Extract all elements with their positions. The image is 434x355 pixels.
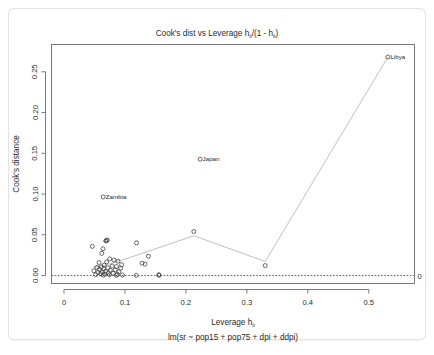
y-axis-label: Cook's distance — [12, 135, 21, 193]
y-tick-label: 0.25 — [31, 64, 40, 79]
model-formula-subtitle: lm(sr ~ pop15 + pop75 + dpi + ddpi) — [168, 333, 298, 342]
data-point — [97, 260, 101, 264]
x-tick-label: 0.1 — [120, 298, 131, 307]
x-tick-label: 0.4 — [303, 298, 314, 307]
y-tick-label: 0.15 — [31, 146, 40, 161]
data-point — [192, 230, 196, 234]
contour-label-0: 0 — [418, 272, 422, 281]
x-axis-label-text: Leverage h — [211, 318, 252, 327]
y-axis: 0.000.050.100.150.200.25 — [31, 64, 46, 282]
point-label-japan: Japan — [203, 155, 220, 162]
x-tick-label: 0 — [62, 298, 66, 307]
chart-title-end: ) — [276, 29, 279, 38]
x-axis-label-sub: ii — [252, 322, 255, 328]
x-axis-label: Leverage hii — [211, 318, 254, 328]
x-tick-label: 0.3 — [242, 298, 253, 307]
data-point — [263, 264, 267, 268]
data-point — [100, 251, 104, 255]
plot-frame — [52, 45, 415, 284]
y-tick-label: 0.05 — [31, 227, 40, 242]
cooks-distance-leverage-plot: Cook's dist vs Leverage hii/(1 - hii) Li… — [0, 0, 434, 355]
data-points-group — [90, 55, 390, 277]
point-label-libya: Libya — [390, 53, 405, 60]
data-point — [135, 241, 139, 245]
data-point — [198, 157, 202, 161]
x-axis: 00.10.20.30.40.5 — [62, 290, 374, 307]
data-point — [92, 269, 96, 273]
y-tick-label: 0.20 — [31, 105, 40, 120]
data-point — [121, 273, 125, 277]
data-point — [112, 258, 116, 262]
lowess-smoother — [93, 57, 388, 267]
x-tick-label: 0.2 — [181, 298, 192, 307]
data-point — [101, 195, 105, 199]
chart-title-mid: /(1 - h — [252, 29, 274, 38]
contour-labels-group: 0 — [418, 272, 422, 281]
point-labels-group: LibyaJapanZambia — [106, 53, 406, 200]
data-point — [110, 264, 114, 268]
x-tick-label: 0.5 — [364, 298, 375, 307]
y-tick-label: 0.10 — [31, 187, 40, 202]
chart-title-main: Cook's dist vs Leverage h — [156, 29, 250, 38]
data-point — [101, 247, 105, 251]
smoother-line-group — [93, 57, 388, 267]
chart-title: Cook's dist vs Leverage hii/(1 - hii) — [156, 29, 279, 39]
data-point — [90, 244, 94, 248]
data-point — [146, 254, 150, 258]
point-label-zambia: Zambia — [106, 193, 127, 200]
y-tick-label: 0.00 — [31, 268, 40, 283]
